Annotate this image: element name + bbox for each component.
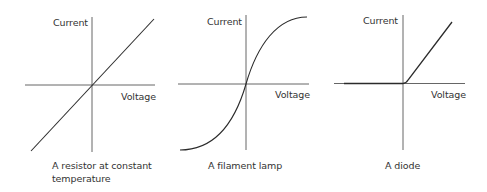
resistor-caption: A resistor at constant temperature: [52, 160, 152, 185]
resistor-graph: [25, 17, 155, 152]
resistor-x-axis-label: Voltage: [121, 91, 156, 103]
lamp-graph: [178, 15, 309, 150]
resistor-y-axis-label: Current: [53, 17, 88, 29]
diode-graph: [334, 15, 465, 150]
resistor-caption-line1: A resistor at constant: [52, 160, 152, 173]
lamp-caption: A filament lamp: [208, 160, 282, 173]
diode-x-axis-label: Voltage: [431, 89, 466, 101]
diode-caption-line1: A diode: [385, 160, 420, 173]
lamp-curve: [180, 17, 307, 150]
resistor-caption-line2: temperature: [52, 173, 152, 186]
diode-caption: A diode: [385, 160, 420, 173]
diode-y-axis-label: Current: [363, 15, 398, 27]
diode-curve: [344, 22, 452, 84]
lamp-y-axis-label: Current: [207, 16, 242, 28]
lamp-x-axis-label: Voltage: [275, 89, 310, 101]
lamp-caption-line1: A filament lamp: [208, 160, 282, 173]
